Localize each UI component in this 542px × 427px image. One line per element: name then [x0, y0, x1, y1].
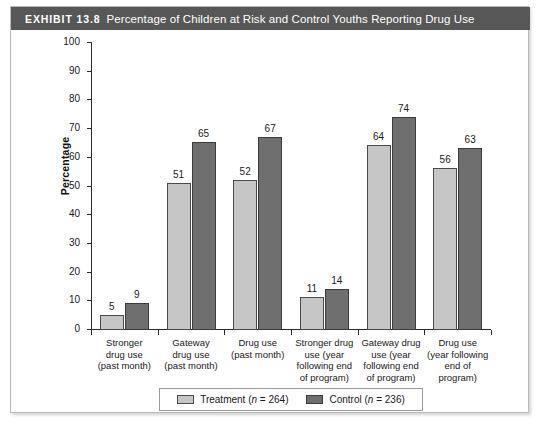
x-tick-mark	[91, 330, 92, 335]
exhibit-frame: EXHIBIT 13.8 Percentage of Children at R…	[10, 6, 529, 413]
bar-control	[458, 148, 482, 330]
x-axis-group-label-line: Gateway	[155, 337, 228, 349]
bar-treatment	[233, 180, 257, 330]
x-axis-group-label-line: Drug use	[421, 337, 494, 349]
bar-value-label: 65	[184, 129, 224, 139]
x-axis-group-label-line: Gateway drug	[355, 337, 428, 349]
x-axis-group-label-line: of program)	[288, 372, 361, 384]
x-axis-group-label: Gatewaydrug use(past month)	[155, 337, 228, 372]
x-axis-group-label: Gateway druguse (yearfollowing endof pro…	[355, 337, 428, 383]
chart-legend: Treatment (n = 264) Control (n = 236)	[159, 388, 423, 411]
x-axis-group-label-line: Drug use	[221, 337, 294, 349]
x-axis-group-label-line: (past month)	[221, 349, 294, 361]
x-axis-group-label-line: (year following	[421, 349, 494, 361]
x-axis-group-label-line: of program)	[355, 372, 428, 384]
bar-chart: Percentage 0102030405060708090100 595165…	[11, 30, 530, 413]
exhibit-title-text: Percentage of Children at Risk and Contr…	[107, 13, 475, 25]
x-tick-mark	[491, 330, 492, 335]
x-tick-mark	[158, 330, 159, 335]
x-axis-group-label-line: following end	[355, 360, 428, 372]
bar-value-label: 9	[117, 290, 157, 300]
bar-control	[258, 137, 282, 330]
x-tick-mark	[224, 330, 225, 335]
bar-treatment	[367, 145, 391, 330]
bar-value-label: 14	[317, 276, 357, 286]
x-tick-mark	[291, 330, 292, 335]
y-tick-label: 80	[54, 94, 80, 104]
x-axis-group-label: Stronger druguse (yearfollowing endof pr…	[288, 337, 361, 383]
x-axis-group-label: Drug use(year followingend ofprogram)	[421, 337, 494, 383]
y-tick-label: 60	[54, 152, 80, 162]
x-axis-group-label-line: program)	[421, 372, 494, 384]
bar-value-label: 67	[250, 124, 290, 134]
x-axis-group-label-line: (past month)	[88, 360, 161, 372]
y-tick-label: 30	[54, 238, 80, 248]
x-axis-group-label: Strongerdrug use(past month)	[88, 337, 161, 372]
x-axis-group-label-line: (past month)	[155, 360, 228, 372]
y-axis-line	[91, 42, 92, 330]
x-axis-group-label-line: use (year	[288, 349, 361, 361]
legend-swatch-treatment	[177, 395, 194, 404]
y-tick-label: 70	[54, 123, 80, 133]
y-tick-label: 0	[54, 324, 80, 334]
bar-value-label: 63	[450, 135, 490, 145]
x-tick-mark	[424, 330, 425, 335]
bar-value-label: 74	[384, 104, 424, 114]
bar-control	[125, 303, 149, 330]
y-tick-label: 90	[54, 66, 80, 76]
x-axis-group-label-line: use (year	[355, 349, 428, 361]
bar-treatment	[433, 168, 457, 330]
x-axis-group-label-line: end of	[421, 360, 494, 372]
legend-label-treatment: Treatment (n = 264)	[200, 394, 288, 405]
bar-treatment	[167, 183, 191, 330]
bar-control	[192, 142, 216, 330]
x-axis-group-label-line: drug use	[88, 349, 161, 361]
y-tick-label: 100	[54, 37, 80, 47]
x-axis-group-label-line: drug use	[155, 349, 228, 361]
bar-control	[325, 289, 349, 330]
exhibit-title-bar: EXHIBIT 13.8 Percentage of Children at R…	[11, 7, 530, 30]
legend-swatch-control	[306, 395, 323, 404]
bar-control	[392, 117, 416, 330]
x-axis-group-label-line: following end	[288, 360, 361, 372]
legend-label-control: Control (n = 236)	[329, 394, 404, 405]
x-tick-mark	[358, 330, 359, 335]
legend-item-control: Control (n = 236)	[306, 394, 404, 405]
exhibit-number: EXHIBIT 13.8	[25, 13, 101, 25]
legend-item-treatment: Treatment (n = 264)	[177, 394, 288, 405]
y-tick-label: 50	[54, 181, 80, 191]
x-axis-group-label-line: Stronger	[88, 337, 161, 349]
bar-treatment	[100, 315, 124, 330]
y-tick-label: 40	[54, 209, 80, 219]
x-axis-group-label-line: Stronger drug	[288, 337, 361, 349]
bar-treatment	[300, 297, 324, 330]
y-tick-label: 10	[54, 295, 80, 305]
x-axis-group-label: Drug use(past month)	[221, 337, 294, 360]
y-tick-label: 20	[54, 267, 80, 277]
